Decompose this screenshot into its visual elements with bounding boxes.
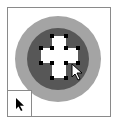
selection-handle[interactable] — [76, 46, 80, 50]
selection-handle[interactable] — [50, 61, 54, 65]
selection-handle[interactable] — [50, 46, 54, 50]
selection-handle[interactable] — [64, 76, 68, 80]
selection-handle[interactable] — [64, 61, 68, 65]
selection-handle[interactable] — [50, 34, 54, 38]
selection-handle[interactable] — [39, 61, 43, 65]
selection-handle[interactable] — [64, 46, 68, 50]
selection-arrow-icon — [15, 97, 26, 112]
selection-handle[interactable] — [50, 76, 54, 80]
arrow-pointer-icon — [71, 63, 84, 81]
cross-shape-horizontal[interactable] — [41, 48, 78, 63]
selection-tool-indicator[interactable] — [7, 90, 32, 117]
selection-handle[interactable] — [64, 34, 68, 38]
selection-handle[interactable] — [39, 46, 43, 50]
